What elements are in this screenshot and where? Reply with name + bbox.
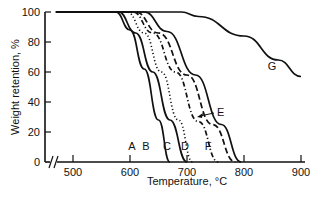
curve-label-f: F [205,140,212,152]
curve-a [56,12,170,162]
x-tick-label: 800 [235,166,253,178]
curve-label-a: A [128,140,136,152]
y-tick-label: 60 [28,66,40,78]
y-tick-label: 100 [22,6,40,18]
weight-retention-chart: 020406080100500600700800900 ABCDFGE Temp… [0,0,321,199]
y-tick-label: 20 [28,126,40,138]
x-tick-label: 900 [292,166,310,178]
curve-label-e: E [217,106,224,118]
y-tick-label: 0 [34,156,40,168]
curve-label-g: G [268,60,277,72]
y-axis-label: Weight retention, % [9,39,21,135]
curve-label-c: C [163,140,171,152]
arrow-icon [197,113,203,118]
axis-break-icon [49,156,58,168]
y-tick-label: 40 [28,96,40,108]
curves [56,12,301,162]
x-axis-label: Temperature, °C [147,175,227,187]
curve-label-d: D [181,140,189,152]
x-tick-label: 600 [121,166,139,178]
curve-label-b: B [142,140,149,152]
y-tick-label: 80 [28,36,40,48]
x-tick-label: 500 [64,166,82,178]
